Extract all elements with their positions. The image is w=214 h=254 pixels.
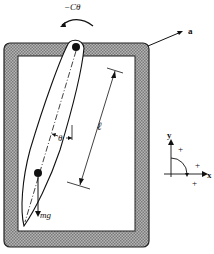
weight-label: mg xyxy=(40,210,51,220)
frame-label-arrow xyxy=(148,31,183,46)
center-of-mass xyxy=(34,169,42,177)
length-label: ℓ xyxy=(97,120,102,132)
plus-sign-angle: + xyxy=(195,160,200,170)
coordinate-axes xyxy=(164,139,208,177)
x-axis-label: x xyxy=(207,170,212,180)
plus-sign-y: + xyxy=(178,144,183,154)
torque-arrow xyxy=(60,20,93,27)
torque-label: −Cθ xyxy=(64,2,81,12)
frame-label: a xyxy=(188,26,193,36)
pivot-point xyxy=(72,43,80,51)
angle-label: θ xyxy=(58,133,63,143)
plus-sign-x: + xyxy=(192,178,197,188)
pendulum-diagram: a −Cθ θ mg ℓ xyxy=(0,0,214,254)
y-axis-label: y xyxy=(167,130,172,140)
